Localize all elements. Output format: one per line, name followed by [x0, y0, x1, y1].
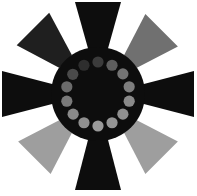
ring-dot [78, 60, 89, 71]
ring-dot [117, 68, 128, 79]
ring-dot [92, 120, 103, 131]
ring-dot [61, 96, 72, 107]
ring-dot [106, 60, 117, 71]
ring-dot [78, 117, 89, 128]
ring-dot [92, 56, 103, 67]
fan-impeller-graphic [0, 0, 197, 196]
ring-dot [67, 69, 78, 80]
ring-dot [106, 117, 117, 128]
ring-dot [124, 96, 135, 107]
fan-impeller-artboard: Fan Impeller Graphic [0, 0, 197, 196]
ring-dot [68, 109, 79, 120]
ring-dot [117, 109, 128, 120]
ring-dot [61, 81, 72, 92]
ring-dot [124, 81, 135, 92]
